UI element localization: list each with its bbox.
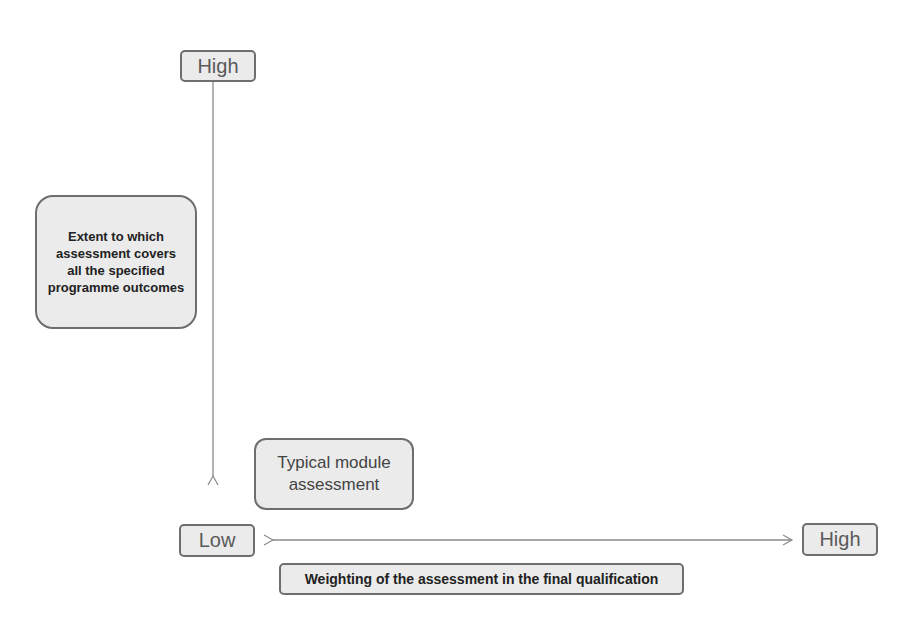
x-axis-title-text: Weighting of the assessment in the final… (305, 571, 659, 588)
y-high-text: High (197, 55, 238, 78)
x-high-text: High (819, 528, 860, 551)
x-axis-title: Weighting of the assessment in the final… (279, 563, 684, 595)
x-axis-high-label: High (802, 523, 878, 556)
typical-module-assessment: Typical module assessment (254, 438, 414, 510)
y-axis-high-label: High (180, 50, 256, 82)
x-axis-low-label: Low (179, 524, 255, 557)
y-axis-title: Extent to which assessment covers all th… (35, 195, 197, 329)
y-axis-title-text: Extent to which assessment covers all th… (47, 228, 185, 296)
x-low-text: Low (199, 529, 236, 552)
typical-module-text: Typical module assessment (272, 452, 396, 496)
